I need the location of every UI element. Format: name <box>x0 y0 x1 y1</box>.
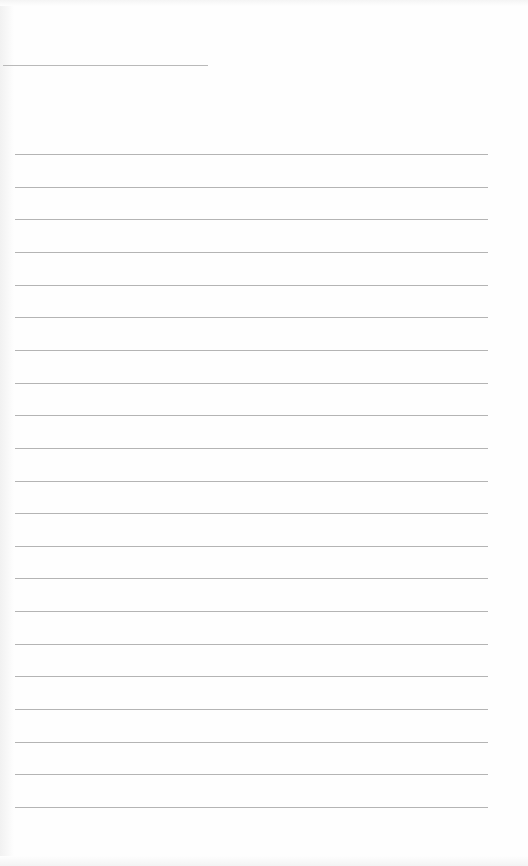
ruled-line <box>15 578 488 579</box>
ruled-line <box>15 350 488 351</box>
ruled-line <box>15 644 488 645</box>
ruled-line <box>15 742 488 743</box>
page-edge-shadow <box>0 0 14 866</box>
ruled-line <box>15 676 488 677</box>
lined-paper-page <box>0 0 528 866</box>
ruled-line <box>15 383 488 384</box>
ruled-line <box>15 546 488 547</box>
ruled-line <box>15 252 488 253</box>
ruled-line <box>15 513 488 514</box>
ruled-line <box>15 415 488 416</box>
top-edge-bleed <box>0 0 528 6</box>
ruled-line <box>15 774 488 775</box>
ruled-line <box>15 448 488 449</box>
bottom-edge-bleed <box>0 856 528 866</box>
ruled-line <box>15 611 488 612</box>
ruled-line <box>15 285 488 286</box>
ruled-line <box>15 709 488 710</box>
ruled-line <box>15 154 488 155</box>
ruled-line <box>15 187 488 188</box>
header-rule <box>3 65 208 66</box>
ruled-line <box>15 219 488 220</box>
ruled-line <box>15 807 488 808</box>
ruled-line <box>15 481 488 482</box>
ruled-line <box>15 317 488 318</box>
